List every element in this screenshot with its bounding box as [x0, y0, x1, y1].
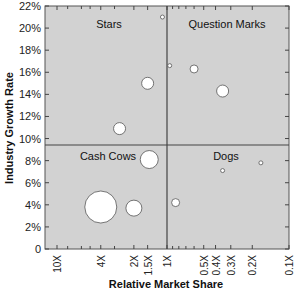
y-axis-title: Industry Growth Rate — [3, 72, 15, 184]
bubble — [217, 85, 229, 97]
y-tick-label: 12% — [19, 110, 41, 122]
bubble — [172, 199, 180, 207]
bubble — [190, 65, 198, 73]
y-tick-label: 10% — [19, 133, 41, 145]
y-tick-label: 14% — [19, 88, 41, 100]
x-tick-label: 0.4X — [211, 255, 222, 276]
y-tick-label: 0 — [35, 243, 41, 255]
x-tick-label: 2X — [129, 255, 140, 268]
x-tick-label: 0.5X — [199, 255, 210, 276]
quadrant-label-stars: Stars — [96, 18, 122, 30]
bubble — [126, 200, 142, 216]
bubble — [168, 64, 172, 68]
x-tick-label: 0.2X — [247, 255, 258, 276]
bubble — [160, 15, 164, 19]
x-tick-label: 4X — [96, 255, 107, 268]
bcg-matrix-chart: 02%4%6%8%10%12%14%16%18%20%22% 10X4X2X1.… — [0, 0, 296, 292]
y-tick-label: 18% — [19, 44, 41, 56]
y-axis-tick-labels: 02%4%6%8%10%12%14%16%18%20%22% — [19, 0, 41, 255]
x-tick-label: 1X — [162, 255, 173, 268]
y-tick-label: 4% — [25, 199, 41, 211]
bubble — [259, 161, 263, 165]
quadrant-label-question-marks: Question Marks — [188, 18, 266, 30]
x-tick-label: 1.5X — [143, 255, 154, 276]
bubble — [85, 191, 117, 223]
y-tick-label: 8% — [25, 155, 41, 167]
quadrant-label-dogs: Dogs — [213, 150, 239, 162]
y-tick-label: 20% — [19, 22, 41, 34]
x-tick-label: 0.3X — [226, 255, 237, 276]
bubble — [114, 123, 126, 135]
y-tick-label: 22% — [19, 0, 41, 12]
bubble — [140, 151, 158, 169]
x-tick-label: 0.1X — [284, 255, 295, 276]
bubble — [142, 77, 154, 89]
y-tick-label: 16% — [19, 66, 41, 78]
quadrant-label-cash-cows: Cash Cows — [80, 150, 137, 162]
bubble — [221, 169, 225, 173]
x-axis-title: Relative Market Share — [109, 278, 223, 290]
y-tick-label: 6% — [25, 177, 41, 189]
y-tick-label: 2% — [25, 221, 41, 233]
x-axis-tick-labels: 10X4X2X1.5X1X0.5X0.4X0.3X0.2X0.1X — [52, 255, 295, 276]
x-tick-label: 10X — [52, 255, 63, 273]
